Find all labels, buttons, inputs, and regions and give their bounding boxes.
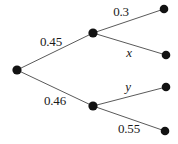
edge-label-upper-leaf1: 0.3 (113, 5, 129, 18)
edge-label-lower-leaf3: y (125, 80, 131, 93)
edge-label-root-upper: 0.45 (40, 35, 62, 48)
leaf-node-2 (162, 51, 171, 60)
tree-graphics (0, 0, 178, 144)
nodes-group (12, 5, 170, 136)
edges-group (17, 9, 166, 131)
leaf-node-4 (161, 127, 170, 136)
root-node (12, 65, 21, 74)
leaf-node-1 (160, 5, 169, 14)
probability-tree-diagram: 0.450.460.3xy0.55 (0, 0, 178, 144)
upper-branch-node (88, 28, 97, 37)
leaf-node-3 (162, 83, 171, 92)
edge-label-root-lower: 0.46 (44, 94, 66, 107)
edge-label-lower-leaf4: 0.55 (118, 122, 140, 135)
edge-label-upper-leaf2: x (126, 46, 132, 59)
lower-branch-node (88, 101, 97, 110)
